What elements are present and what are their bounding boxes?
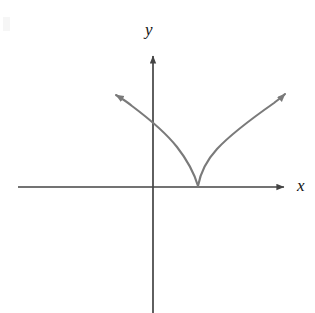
axes-group xyxy=(18,56,284,313)
curve-left-branch xyxy=(116,95,198,186)
curve-right-branch xyxy=(198,94,285,186)
y-axis-label: y xyxy=(145,21,153,38)
graph-canvas xyxy=(0,0,315,313)
graph-figure: x y xyxy=(0,0,315,313)
x-axis-label: x xyxy=(297,177,305,194)
curve-group xyxy=(116,94,285,186)
